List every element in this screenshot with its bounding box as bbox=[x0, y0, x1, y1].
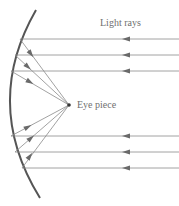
arrow-left-icon bbox=[122, 53, 130, 58]
eye-piece-label: Eye piece bbox=[77, 99, 116, 110]
arrow-icon bbox=[25, 78, 34, 86]
reflected-arrow-heads bbox=[23, 49, 35, 160]
arrow-left-icon bbox=[122, 150, 130, 155]
concave-mirror bbox=[10, 10, 40, 198]
reflected-ray bbox=[11, 105, 69, 136]
reflected-rays bbox=[11, 39, 69, 168]
reflected-ray bbox=[15, 105, 69, 152]
focal-point bbox=[67, 103, 71, 107]
arrow-left-icon bbox=[122, 166, 130, 171]
incoming-arrow-heads bbox=[122, 37, 130, 171]
arrow-icon bbox=[23, 123, 32, 131]
reflected-ray bbox=[15, 55, 69, 105]
reflected-ray bbox=[20, 39, 69, 105]
arrow-left-icon bbox=[122, 37, 130, 42]
reflected-ray bbox=[11, 71, 69, 105]
light-rays-label: Light rays bbox=[100, 17, 141, 28]
arrow-left-icon bbox=[122, 134, 130, 139]
arrow-left-icon bbox=[122, 69, 130, 74]
